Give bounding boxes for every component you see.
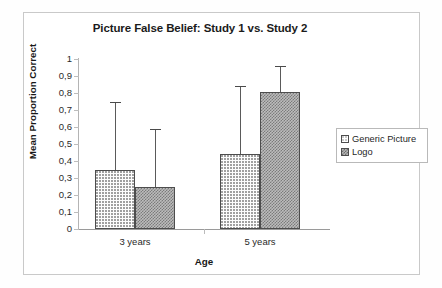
chart-title: Picture False Belief: Study 1 vs. Study … (40, 22, 360, 34)
y-tick-label: 0,7 (44, 105, 72, 115)
error-bar-logo-5-years (280, 66, 281, 92)
legend-swatch-icon (341, 135, 349, 143)
y-tick-label: 0,6 (44, 122, 72, 132)
y-axis-tick (74, 93, 79, 94)
x-tick-label-5-years: 5 years (220, 236, 300, 247)
error-bar-cap (150, 129, 161, 130)
y-tick-label: 1 (44, 54, 72, 64)
bar-logo-3-years (135, 187, 175, 229)
y-axis-title: Mean Proportion Correct (27, 42, 38, 162)
legend-item-generic-picture: Generic Picture (341, 132, 423, 145)
y-tick-label: 0,3 (44, 173, 72, 183)
legend-item-logo: Logo (341, 145, 423, 158)
chart-legend: Generic Picture Logo (336, 128, 428, 163)
x-tick-label-3-years: 3 years (95, 236, 175, 247)
y-tick-label: 0,1 (44, 207, 72, 217)
bar-generic-picture-3-years (95, 170, 135, 229)
y-axis-tick (74, 161, 79, 162)
bar-logo-5-years (260, 92, 300, 229)
legend-swatch-icon (341, 148, 349, 156)
error-bar-generic-picture-3-years (115, 102, 116, 170)
y-tick-label: 0 (44, 224, 72, 234)
y-axis-tick (74, 59, 79, 60)
error-bar-logo-3-years (155, 129, 156, 187)
y-axis-tick (74, 229, 79, 230)
y-tick-label: 0,5 (44, 139, 72, 149)
y-axis-tick (74, 127, 79, 128)
chart-figure: Picture False Belief: Study 1 vs. Study … (0, 0, 442, 288)
legend-label: Generic Picture (352, 134, 416, 144)
x-axis-divider (204, 229, 205, 234)
y-tick-label: 0,4 (44, 156, 72, 166)
y-axis-tick (74, 144, 79, 145)
y-axis-tick-labels: 1 0,9 0,8 0,7 0,6 0,5 0,4 0,3 0,2 0,1 0 (40, 0, 72, 288)
y-axis-tick (74, 212, 79, 213)
y-axis-tick (74, 76, 79, 77)
error-bar-cap (110, 102, 121, 103)
error-bar-cap (235, 86, 246, 87)
x-axis-title: Age (79, 256, 329, 267)
error-bar-generic-picture-5-years (240, 86, 241, 154)
bar-generic-picture-5-years (220, 154, 260, 229)
y-tick-label: 0,2 (44, 190, 72, 200)
y-axis-tick (74, 178, 79, 179)
y-tick-label: 0,8 (44, 88, 72, 98)
legend-label: Logo (352, 147, 373, 157)
y-axis-tick (74, 195, 79, 196)
y-tick-label: 0,9 (44, 71, 72, 81)
y-axis-tick (74, 110, 79, 111)
error-bar-cap (275, 66, 286, 67)
